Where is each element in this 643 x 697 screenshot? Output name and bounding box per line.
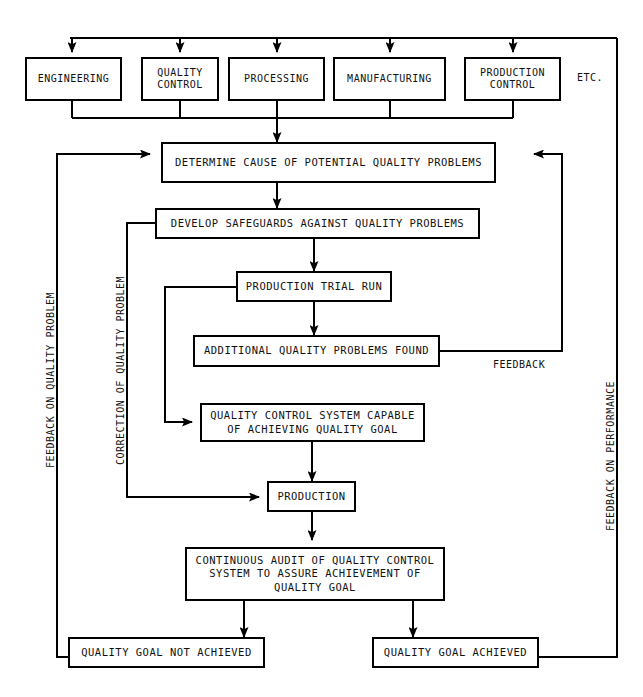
box-production-label: PRODUCTION bbox=[273, 490, 349, 503]
feedback-on-performance-line bbox=[538, 38, 617, 657]
correction-of-quality-problem-label: CORRECTION OF QUALITY PROBLEM bbox=[115, 276, 126, 465]
box-determine-cause-label: DETERMINE CAUSE OF POTENTIAL QUALITY PRO… bbox=[171, 156, 486, 169]
box-develop-safeguards[interactable]: DEVELOP SAFEGUARDS AGAINST QUALITY PROBL… bbox=[155, 208, 480, 239]
box-processing-label: PROCESSING bbox=[240, 73, 313, 86]
box-qc-system-capable-label: QUALITY CONTROL SYSTEM CAPABLE OF ACHIEV… bbox=[206, 409, 419, 435]
box-continuous-audit[interactable]: CONTINUOUS AUDIT OF QUALITY CONTROL SYST… bbox=[185, 547, 445, 601]
box-production-control[interactable]: PRODUCTION CONTROL bbox=[464, 57, 561, 101]
box-qc-system-capable[interactable]: QUALITY CONTROL SYSTEM CAPABLE OF ACHIEV… bbox=[200, 403, 425, 442]
box-engineering[interactable]: ENGINEERING bbox=[25, 57, 122, 101]
feedback-loop-additional-to-determine bbox=[440, 154, 562, 351]
feedback-label: FEEDBACK bbox=[493, 359, 545, 370]
box-production-trial-run[interactable]: PRODUCTION TRIAL RUN bbox=[236, 271, 392, 302]
box-determine-cause[interactable]: DETERMINE CAUSE OF POTENTIAL QUALITY PRO… bbox=[161, 142, 496, 183]
box-quality-control-label: QUALITY CONTROL bbox=[153, 67, 207, 92]
box-continuous-audit-label: CONTINUOUS AUDIT OF QUALITY CONTROL SYST… bbox=[192, 554, 439, 593]
box-production-control-label: PRODUCTION CONTROL bbox=[476, 67, 549, 92]
feedback-on-quality-problem-line bbox=[57, 154, 150, 657]
feedback-on-quality-problem-label: FEEDBACK ON QUALITY PROBLEM bbox=[45, 292, 56, 468]
box-quality-control[interactable]: QUALITY CONTROL bbox=[141, 57, 219, 101]
feedback-on-performance-label: FEEDBACK ON PERFORMANCE bbox=[605, 381, 616, 531]
box-goal-not-achieved[interactable]: QUALITY GOAL NOT ACHIEVED bbox=[68, 637, 265, 668]
box-production[interactable]: PRODUCTION bbox=[267, 481, 356, 512]
box-engineering-label: ENGINEERING bbox=[34, 73, 114, 86]
flowchart-canvas: ENGINEERING QUALITY CONTROL PROCESSING M… bbox=[0, 0, 643, 697]
box-develop-safeguards-label: DEVELOP SAFEGUARDS AGAINST QUALITY PROBL… bbox=[167, 217, 468, 230]
box-production-trial-run-label: PRODUCTION TRIAL RUN bbox=[242, 280, 386, 293]
etc-label: ETC. bbox=[577, 72, 603, 83]
box-goal-achieved-label: QUALITY GOAL ACHIEVED bbox=[380, 646, 531, 659]
box-manufacturing-label: MANUFACTURING bbox=[343, 73, 436, 86]
box-goal-not-achieved-label: QUALITY GOAL NOT ACHIEVED bbox=[77, 646, 256, 659]
box-goal-achieved[interactable]: QUALITY GOAL ACHIEVED bbox=[372, 637, 539, 668]
box-additional-problems[interactable]: ADDITIONAL QUALITY PROBLEMS FOUND bbox=[193, 335, 440, 367]
box-additional-problems-label: ADDITIONAL QUALITY PROBLEMS FOUND bbox=[200, 344, 433, 357]
box-manufacturing[interactable]: MANUFACTURING bbox=[333, 57, 446, 101]
box-processing[interactable]: PROCESSING bbox=[228, 57, 325, 101]
